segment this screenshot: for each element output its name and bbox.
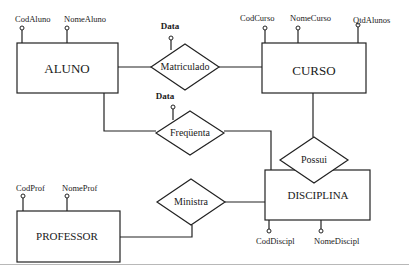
attribute-circle-codprof-icon (21, 194, 25, 198)
relationship-possui-label: Possui (301, 154, 327, 165)
attribute-data-frequenta: Data (156, 91, 175, 101)
attribute-circle-data2-icon (171, 105, 175, 109)
attribute-circle-data1-icon (169, 36, 173, 40)
relationship-ministra-label: Ministra (174, 196, 208, 207)
attribute-nomediscipl: NomeDiscipl (314, 236, 360, 246)
line-aluno-frequenta (104, 93, 156, 131)
relationship-matriculado-label: Matriculado (161, 61, 210, 72)
line-frequenta-disciplina (224, 131, 271, 170)
attribute-data-matriculado: Data (161, 21, 180, 31)
relationship-frequenta-label: Freqüenta (170, 127, 211, 138)
attribute-codaluno: CodAluno (15, 14, 50, 24)
entity-curso-label: CURSO (292, 63, 335, 78)
attribute-nomeprof: NomeProf (62, 183, 98, 193)
line-professor-ministra (120, 225, 192, 237)
attribute-circle-nomecurso-icon (296, 26, 300, 30)
entity-disciplina-label: DISCIPLINA (287, 189, 348, 201)
attribute-codcurso: CodCurso (240, 13, 274, 23)
attribute-circle-nomediscipl-icon (319, 229, 323, 233)
attribute-nomecurso: NomeCurso (290, 13, 331, 23)
attribute-circle-codaluno-icon (20, 26, 24, 30)
entity-professor-label: PROFESSOR (36, 230, 98, 242)
attribute-circle-codcurso-icon (263, 26, 267, 30)
attribute-circle-coddiscipl-icon (267, 229, 271, 233)
attribute-circle-nomeprof-icon (65, 194, 69, 198)
attribute-circle-nomealuno-icon (65, 26, 69, 30)
er-diagram: ALUNO CURSO DISCIPLINA PROFESSOR Matricu… (0, 0, 409, 272)
entity-aluno-label: ALUNO (44, 61, 90, 76)
attribute-nomealuno: NomeAluno (64, 14, 106, 24)
attribute-qtdalunos: QtdAlunos (353, 15, 390, 25)
attribute-coddiscipl: CodDiscipl (256, 236, 295, 246)
attribute-codprof: CodProf (16, 183, 45, 193)
